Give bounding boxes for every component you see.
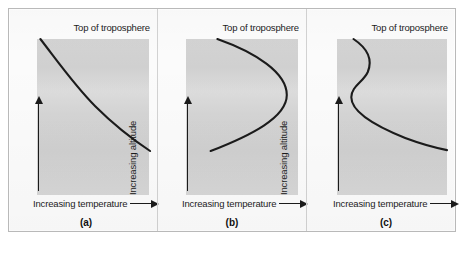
y-axis-shaft-c: [338, 103, 339, 191]
x-axis-label-c: Increasing temperature: [333, 198, 427, 209]
plot-area-c: [337, 39, 447, 195]
x-axis-c: Increasing temperature: [333, 198, 460, 209]
y-axis-label-b: Increasing altitude: [127, 111, 138, 195]
x-axis-arrow-icon-a: [130, 200, 160, 208]
y-axis-shaft-b: [187, 103, 188, 191]
temperature-inversion-curve: [337, 39, 447, 149]
top-of-troposphere-label-a: Top of troposphere: [73, 22, 150, 33]
x-axis-label-b: Increasing temperature: [182, 198, 276, 209]
x-axis-a: Increasing temperature: [33, 198, 160, 209]
y-axis-label-c: Increasing altitude: [278, 111, 289, 195]
top-of-troposphere-label-b: Top of troposphere: [222, 22, 299, 33]
y-axis-b: Increasing altitude: [172, 97, 194, 191]
top-of-troposphere-label-c: Top of troposphere: [371, 22, 448, 33]
panel-caption-b: (b): [158, 217, 306, 228]
y-axis-c: Increasing altitude: [323, 97, 345, 191]
y-axis-a: Increasing altitude: [23, 97, 45, 191]
figure-frame: Top of troposphere Increasing altitude I…: [8, 8, 456, 232]
panel-row: Top of troposphere Increasing altitude I…: [9, 9, 455, 231]
x-axis-arrow-icon-c: [430, 200, 460, 208]
y-axis-shaft-a: [38, 103, 39, 191]
x-axis-arrow-icon-b: [279, 200, 309, 208]
x-axis-b: Increasing temperature: [182, 198, 309, 209]
panel-caption-a: (a): [9, 217, 157, 228]
panel-c: Top of troposphere Increasing altitude I…: [306, 9, 455, 231]
x-axis-label-a: Increasing temperature: [33, 198, 127, 209]
panel-caption-c: (c): [307, 217, 455, 228]
